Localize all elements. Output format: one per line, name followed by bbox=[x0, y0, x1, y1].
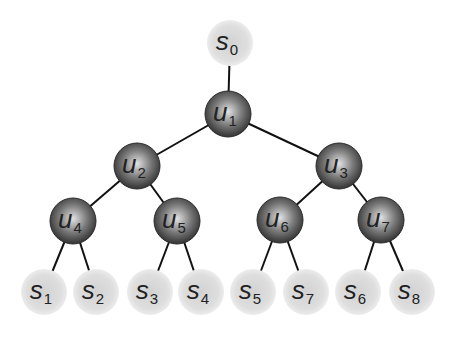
node-s2: s2 bbox=[73, 269, 119, 315]
node-label-base: u bbox=[122, 149, 136, 179]
node-label-base: s bbox=[292, 275, 305, 305]
tree-nodes: s0u1u2u3u4u5u6u7s1s2s3s4s5s7s6s8 bbox=[21, 20, 435, 315]
node-label-base: s bbox=[239, 275, 252, 305]
node-label-base: u bbox=[58, 204, 72, 234]
node-label-base: u bbox=[162, 204, 176, 234]
node-label-subscript: 3 bbox=[150, 290, 158, 307]
node-label-base: u bbox=[324, 149, 338, 179]
node-s8: s8 bbox=[389, 269, 435, 315]
node-s3: s3 bbox=[127, 269, 173, 315]
node-s5: s5 bbox=[230, 269, 276, 315]
node-label-base: s bbox=[344, 275, 357, 305]
node-u3: u3 bbox=[316, 143, 362, 189]
node-label-subscript: 5 bbox=[178, 219, 186, 236]
node-label-base: u bbox=[366, 203, 380, 233]
node-s6: s6 bbox=[335, 269, 381, 315]
node-label-subscript: 6 bbox=[358, 290, 366, 307]
node-label-subscript: 6 bbox=[281, 218, 289, 235]
node-u1: u1 bbox=[205, 91, 251, 137]
node-label-subscript: 7 bbox=[382, 218, 390, 235]
node-label-base: u bbox=[213, 97, 227, 127]
node-label-subscript: 0 bbox=[230, 41, 238, 58]
node-s7: s7 bbox=[283, 269, 329, 315]
node-label-base: s bbox=[82, 275, 95, 305]
node-label-base: u bbox=[265, 203, 279, 233]
node-label-base: s bbox=[136, 275, 149, 305]
node-u7: u7 bbox=[358, 197, 404, 243]
node-label-subscript: 1 bbox=[229, 112, 237, 129]
node-s4: s4 bbox=[178, 269, 224, 315]
node-label-subscript: 2 bbox=[138, 164, 146, 181]
node-u5: u5 bbox=[154, 198, 200, 244]
node-label-subscript: 3 bbox=[340, 164, 348, 181]
node-u6: u6 bbox=[257, 197, 303, 243]
node-s0: s0 bbox=[207, 20, 253, 66]
node-label-subscript: 4 bbox=[201, 290, 209, 307]
node-label-subscript: 8 bbox=[412, 290, 420, 307]
node-u2: u2 bbox=[114, 143, 160, 189]
tree-diagram: s0u1u2u3u4u5u6u7s1s2s3s4s5s7s6s8 bbox=[0, 0, 453, 337]
node-label-base: s bbox=[187, 275, 200, 305]
node-label-subscript: 2 bbox=[96, 290, 104, 307]
node-label-base: s bbox=[398, 275, 411, 305]
node-s1: s1 bbox=[21, 269, 67, 315]
node-label-subscript: 7 bbox=[306, 290, 314, 307]
node-label-base: s bbox=[30, 275, 43, 305]
node-label-base: s bbox=[216, 26, 229, 56]
node-label-subscript: 1 bbox=[44, 290, 52, 307]
node-u4: u4 bbox=[50, 198, 96, 244]
node-label-subscript: 4 bbox=[74, 219, 82, 236]
node-label-subscript: 5 bbox=[253, 290, 261, 307]
